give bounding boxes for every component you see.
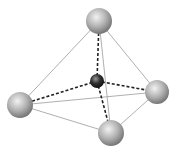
edge-top-right bbox=[99, 21, 157, 92]
tetrahedron-edges bbox=[20, 21, 157, 133]
atom-bottom bbox=[98, 120, 124, 146]
atom-top bbox=[86, 8, 112, 34]
tetrahedron-diagram bbox=[0, 0, 182, 152]
edge-left-right bbox=[20, 92, 157, 105]
atom-right bbox=[145, 80, 169, 104]
atom-left bbox=[7, 92, 33, 118]
center-atom bbox=[90, 74, 104, 88]
edge-top-left bbox=[20, 21, 99, 105]
edge-left-bottom bbox=[20, 105, 111, 133]
bonds bbox=[20, 21, 157, 133]
